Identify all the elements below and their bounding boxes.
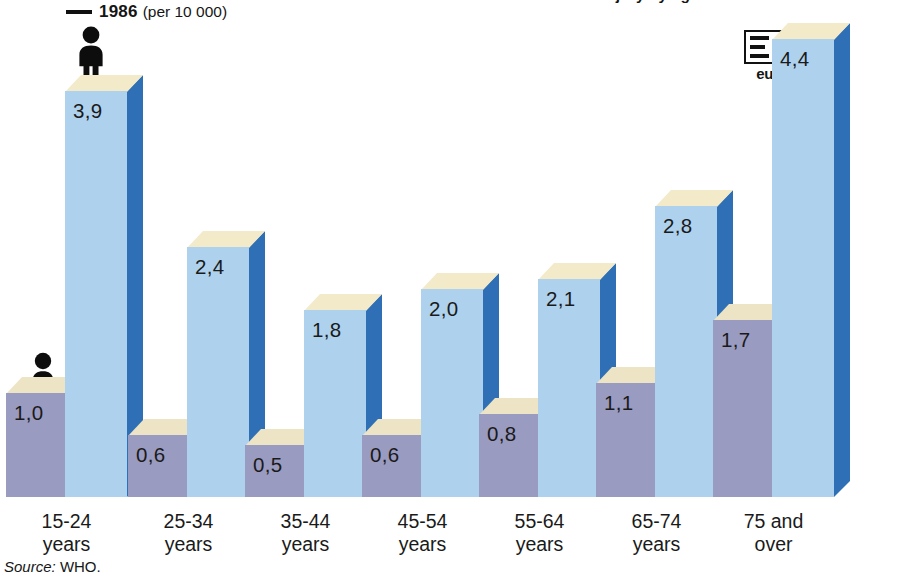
bar-value-label: 3,9 xyxy=(73,99,102,123)
bar-value-label: 2,8 xyxy=(663,214,692,238)
bar-males-7: 4,4 xyxy=(772,23,850,497)
source-label: Source: xyxy=(4,558,56,575)
bar-value-label: 4,4 xyxy=(780,47,809,71)
chart-root: Deaths from suicide and self-inflicted i… xyxy=(0,0,898,585)
source-note: Source: WHO. xyxy=(4,558,101,575)
category-label-line1: 75 and xyxy=(697,510,850,533)
bar-value-label: 1,7 xyxy=(721,328,750,352)
bar-value-label: 1,0 xyxy=(14,401,43,425)
bar-value-label: 1,1 xyxy=(604,391,633,415)
bar-value-label: 2,4 xyxy=(195,255,224,279)
bar-front-face xyxy=(187,247,249,497)
bars-layer: 1,03,90,62,40,51,80,62,00,82,11,12,81,74… xyxy=(0,0,898,585)
bar-value-label: 1,8 xyxy=(312,318,341,342)
bar-value-label: 2,1 xyxy=(546,287,575,311)
bar-value-label: 0,6 xyxy=(370,443,399,467)
category-label-line2: over xyxy=(697,533,850,556)
bar-value-label: 0,5 xyxy=(253,453,282,477)
bar-value-label: 2,0 xyxy=(429,297,458,321)
bar-value-label: 0,6 xyxy=(136,443,165,467)
bar-front-face xyxy=(772,39,834,497)
source-value: WHO. xyxy=(60,558,101,575)
bar-front-face xyxy=(538,279,600,497)
bar-value-label: 0,8 xyxy=(487,422,516,446)
bar-front-face xyxy=(655,206,717,497)
bar-front-face xyxy=(65,91,127,497)
bar-side-face xyxy=(834,23,850,497)
category-label-7: 75 andover xyxy=(697,510,850,556)
